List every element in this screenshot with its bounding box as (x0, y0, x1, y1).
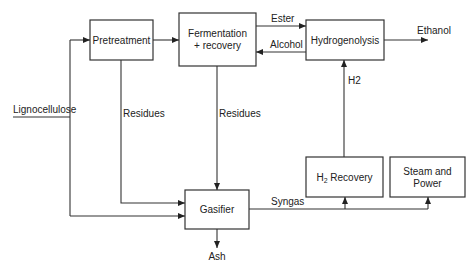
edge-alcohol: Alcohol (256, 39, 306, 52)
fermentation-label-line2: + recovery (194, 40, 241, 51)
ester-label: Ester (271, 13, 295, 24)
steam-power-label-line1: Steam and (403, 166, 451, 177)
residues-pretreatment-arrow (121, 60, 185, 203)
steam-power-label-line2: Power (413, 178, 442, 189)
alcohol-label: Alcohol (270, 39, 303, 50)
residues-fermentation-label: Residues (219, 108, 261, 119)
edge-ash: Ash (208, 229, 225, 262)
node-hydrogenolysis: Hydrogenolysis (306, 20, 384, 60)
node-gasifier: Gasifier (185, 190, 249, 229)
fermentation-label-line1: Fermentation (188, 28, 247, 39)
edge-residues-fermentation: Residues (217, 66, 261, 190)
hydrogenolysis-label: Hydrogenolysis (311, 35, 379, 46)
edge-ethanol: Ethanol (384, 25, 451, 40)
node-h2-recovery: H2 Recovery (306, 157, 383, 197)
ash-label: Ash (208, 251, 225, 262)
ethanol-label: Ethanol (417, 25, 451, 36)
edge-ester: Ester (256, 13, 306, 26)
pretreatment-label: Pretreatment (93, 35, 151, 46)
h2-recovery-main: H (316, 172, 323, 183)
node-fermentation: Fermentation + recovery (179, 13, 256, 66)
feed-label: Lignocellulose (13, 104, 77, 115)
node-steam-power: Steam and Power (390, 157, 465, 197)
edge-h2: H2 (344, 60, 361, 157)
node-pretreatment: Pretreatment (90, 20, 153, 60)
h2-recovery-rest: Recovery (328, 172, 373, 183)
edge-syngas: Syngas (249, 196, 428, 209)
edge-feed: Lignocellulose (13, 40, 185, 216)
h2-label: H2 (348, 75, 361, 86)
syngas-label: Syngas (271, 196, 304, 207)
edge-residues-pretreatment: Residues (121, 60, 185, 203)
residues-pretreatment-label: Residues (123, 108, 165, 119)
gasifier-label: Gasifier (200, 204, 235, 215)
process-flow-diagram: Pretreatment Fermentation + recovery Hyd… (0, 0, 476, 274)
